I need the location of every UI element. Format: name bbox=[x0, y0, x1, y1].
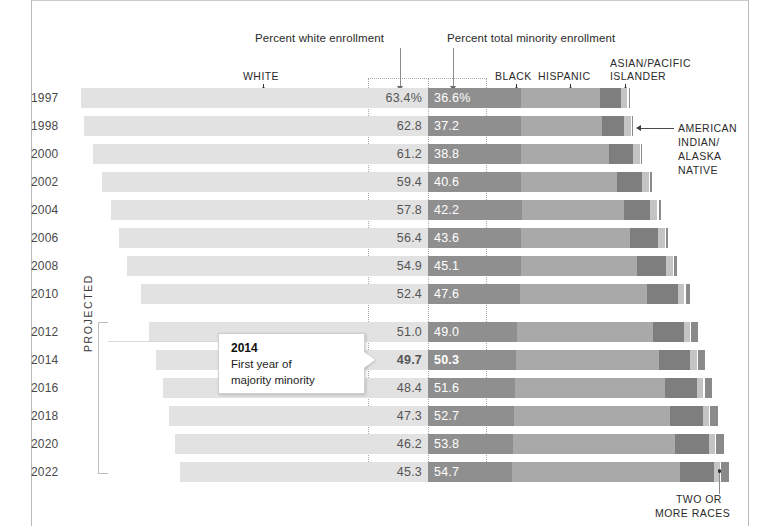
table-row: 201648.451.6 bbox=[0, 378, 777, 398]
bar-segment-two-or-more-races bbox=[674, 256, 676, 276]
bar-segment-american-indian-alaska-native bbox=[709, 434, 715, 454]
value-label-minority: 52.7 bbox=[428, 406, 488, 426]
bar-segment-two-or-more-races bbox=[686, 284, 690, 304]
table-row: 201251.049.0 bbox=[0, 322, 777, 342]
row-year-label: 2006 bbox=[31, 228, 77, 248]
label-american-indian-line1: AMERICAN bbox=[678, 121, 737, 135]
projected-bracket bbox=[98, 322, 108, 474]
bar-segment-hispanic bbox=[514, 406, 670, 426]
bar-segment-hispanic bbox=[513, 434, 675, 454]
bar-segment-asian-pacific-islander bbox=[647, 284, 678, 304]
row-year-label: 2008 bbox=[31, 256, 77, 276]
callout-pointer bbox=[364, 352, 375, 368]
value-label-white: 57.8 bbox=[366, 200, 422, 220]
bar-segment-asian-pacific-islander bbox=[653, 322, 684, 342]
bar-segment-american-indian-alaska-native bbox=[684, 322, 690, 342]
bar-segment-two-or-more-races bbox=[691, 322, 698, 342]
row-year-label: 2014 bbox=[31, 350, 77, 370]
value-label-white: 51.0 bbox=[366, 322, 422, 342]
row-year-label: 1997 bbox=[31, 88, 77, 108]
row-year-label: 2012 bbox=[31, 322, 77, 342]
table-row: 202245.354.7 bbox=[0, 462, 777, 482]
bar-segment-american-indian-alaska-native bbox=[642, 172, 649, 192]
leader-line-american-indian bbox=[641, 128, 674, 129]
bar-segment-two-or-more-races bbox=[650, 172, 652, 192]
bar-segment-asian-pacific-islander bbox=[637, 256, 667, 276]
bar-segment-asian-pacific-islander bbox=[630, 228, 658, 248]
callout-title: 2014 bbox=[231, 341, 364, 356]
value-label-white: 59.4 bbox=[366, 172, 422, 192]
bar-segment-hispanic bbox=[522, 200, 624, 220]
bar-segment-two-or-more-races bbox=[710, 406, 718, 426]
bar-segment-two-or-more-races bbox=[641, 144, 642, 164]
bar-segment-two-or-more-races bbox=[721, 462, 729, 482]
bar-segment-american-indian-alaska-native bbox=[650, 200, 657, 220]
bar-segment-american-indian-alaska-native bbox=[621, 88, 628, 108]
bar-segment-hispanic bbox=[515, 378, 665, 398]
bar-segment-asian-pacific-islander bbox=[624, 200, 651, 220]
bar-segment-american-indian-alaska-native bbox=[633, 144, 640, 164]
leader-dot-two-or-more-races bbox=[718, 469, 722, 473]
table-row: 200854.945.1 bbox=[0, 256, 777, 276]
value-label-white: 63.4% bbox=[366, 88, 422, 108]
value-label-white: 48.4 bbox=[366, 378, 422, 398]
row-year-label: 2016 bbox=[31, 378, 77, 398]
annotation-percent-total-minority-enrollment: Percent total minority enrollment bbox=[447, 32, 615, 44]
value-label-minority: 42.2 bbox=[428, 200, 488, 220]
table-row: 200061.238.8 bbox=[0, 144, 777, 164]
leader-arrow-american-indian bbox=[636, 125, 641, 131]
bar-segment-two-or-more-races bbox=[659, 200, 661, 220]
bar-segment-american-indian-alaska-native bbox=[697, 378, 703, 398]
row-year-label: 2000 bbox=[31, 144, 77, 164]
projected-label: PROJECTED bbox=[82, 274, 94, 352]
value-label-minority: 49.0 bbox=[428, 322, 488, 342]
table-row: 201847.352.7 bbox=[0, 406, 777, 426]
bar-segment-hispanic bbox=[521, 88, 600, 108]
bar-segment-hispanic bbox=[521, 144, 609, 164]
value-label-minority: 40.6 bbox=[428, 172, 488, 192]
bar-segment-asian-pacific-islander bbox=[617, 172, 642, 192]
label-american-indian-line3: ALASKA bbox=[678, 149, 722, 163]
leader-line-two-or-more-races bbox=[719, 472, 720, 494]
table-row: 200656.443.6 bbox=[0, 228, 777, 248]
bar-segment-american-indian-alaska-native bbox=[658, 228, 665, 248]
table-row: 200457.842.2 bbox=[0, 200, 777, 220]
value-label-white: 61.2 bbox=[366, 144, 422, 164]
label-american-indian-line2: INDIAN/ bbox=[678, 135, 720, 149]
value-label-white: 47.3 bbox=[366, 406, 422, 426]
bar-segment-two-or-more-races bbox=[666, 228, 668, 248]
table-row: 200259.440.6 bbox=[0, 172, 777, 192]
bar-segment-hispanic bbox=[517, 322, 652, 342]
row-year-label: 1998 bbox=[31, 116, 77, 136]
label-american-indian-line4: NATIVE bbox=[678, 163, 718, 177]
bar-segment-american-indian-alaska-native bbox=[703, 406, 709, 426]
value-label-white: 46.2 bbox=[366, 434, 422, 454]
callout-line-2: majority minority bbox=[231, 373, 364, 388]
bar-segment-hispanic bbox=[520, 284, 648, 304]
value-label-minority: 54.7 bbox=[428, 462, 488, 482]
bar-segment-american-indian-alaska-native bbox=[678, 284, 685, 304]
bar-segment-hispanic bbox=[512, 462, 680, 482]
page-border-top bbox=[31, 0, 749, 1]
value-label-white: 56.4 bbox=[366, 228, 422, 248]
bar-segment-asian-pacific-islander bbox=[659, 350, 691, 370]
value-label-white: 52.4 bbox=[366, 284, 422, 304]
table-row: 199763.4%36.6% bbox=[0, 88, 777, 108]
bar-segment-asian-pacific-islander bbox=[600, 88, 621, 108]
annotation-percent-white-enrollment: Percent white enrollment bbox=[255, 32, 384, 44]
table-row: 201449.750.3 bbox=[0, 350, 777, 370]
row-year-label: 2018 bbox=[31, 406, 77, 426]
label-two-or-more-races-line1: TWO OR bbox=[676, 492, 722, 506]
row-year-label: 2022 bbox=[31, 462, 77, 482]
bar-segment-asian-pacific-islander bbox=[680, 462, 714, 482]
value-label-minority: 47.6 bbox=[428, 284, 488, 304]
value-label-white: 62.8 bbox=[366, 116, 422, 136]
row-year-label: 2004 bbox=[31, 200, 77, 220]
row-year-label: 2010 bbox=[31, 284, 77, 304]
bar-segment-american-indian-alaska-native bbox=[624, 116, 631, 136]
legend-label-white: WHITE bbox=[243, 70, 279, 82]
row-year-label: 2002 bbox=[31, 172, 77, 192]
bar-segment-asian-pacific-islander bbox=[675, 434, 708, 454]
bar-segment-asian-pacific-islander bbox=[670, 406, 703, 426]
label-two-or-more-races-line2: MORE RACES bbox=[655, 506, 730, 520]
